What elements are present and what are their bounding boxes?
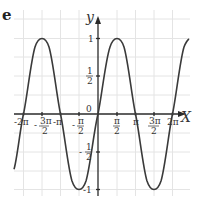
svg-text:1: 1 — [86, 142, 92, 152]
y-tick-neg-half: - 1 2 — [79, 142, 92, 162]
svg-text:2: 2 — [78, 126, 84, 136]
x-tick-neg-pi: -π — [53, 117, 62, 127]
y-tick-half: 1 2 — [86, 66, 93, 86]
y-axis-label: y — [85, 9, 95, 25]
svg-text:2: 2 — [114, 126, 120, 136]
svg-text:π: π — [78, 116, 84, 126]
x-axis-label: X — [180, 109, 192, 125]
x-tick-2pi: 2π — [167, 117, 179, 127]
svg-text:π: π — [114, 116, 120, 126]
y-tick-neg-1: -1 — [83, 185, 92, 195]
x-tick-neg-2pi: -2π — [14, 117, 29, 127]
sine-chart: y X 0 1 1 2 - 1 2 -1 -2π - 3π 2 -π - π 2 — [0, 0, 199, 200]
x-tick-pi: π — [133, 117, 139, 127]
svg-text:1: 1 — [87, 66, 93, 76]
origin-label: 0 — [86, 104, 92, 114]
svg-text:2: 2 — [42, 126, 48, 136]
svg-text:-: - — [72, 120, 75, 130]
svg-text:-: - — [34, 120, 37, 130]
axis-labels: y X 0 1 1 2 - 1 2 -1 -2π - 3π 2 -π - π 2 — [14, 9, 192, 195]
svg-text:2: 2 — [87, 76, 93, 86]
y-tick-1: 1 — [88, 34, 94, 44]
x-tick-pi-2: π 2 — [113, 116, 120, 136]
svg-text:3π: 3π — [149, 116, 161, 126]
svg-text:3π: 3π — [40, 116, 52, 126]
svg-text:-: - — [79, 147, 82, 157]
svg-text:2: 2 — [86, 152, 92, 162]
y-axis-arrow-icon — [95, 16, 101, 24]
svg-text:2: 2 — [151, 126, 157, 136]
